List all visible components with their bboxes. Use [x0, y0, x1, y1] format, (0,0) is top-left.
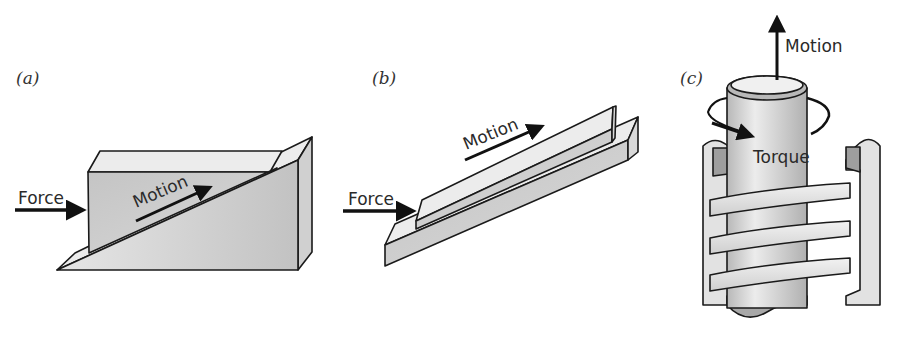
motion-label-c: Motion: [785, 36, 843, 56]
panel-c: (c) Torque Motion: [680, 22, 880, 317]
panel-c-label: (c): [680, 68, 703, 88]
force-label-a: Force: [18, 188, 64, 208]
housing-slot-right: [846, 147, 860, 172]
slider-end-face: [612, 106, 616, 142]
wedge-end-face: [298, 137, 312, 270]
housing-slot-left: [713, 148, 728, 176]
torque-label: Torque: [752, 147, 810, 167]
panel-b: (b) Force Motion: [343, 68, 638, 266]
screw-top-face: [731, 76, 803, 94]
panel-a: (a) Force Motion: [15, 68, 312, 270]
torque-arrow-back-right: [807, 98, 829, 134]
panel-a-label: (a): [16, 68, 39, 88]
block-top-face: [88, 151, 282, 172]
force-label-b: Force: [348, 189, 394, 209]
panel-b-label: (b): [372, 68, 396, 88]
diagram-canvas: (a) Force Motion (b) Force: [0, 0, 902, 338]
